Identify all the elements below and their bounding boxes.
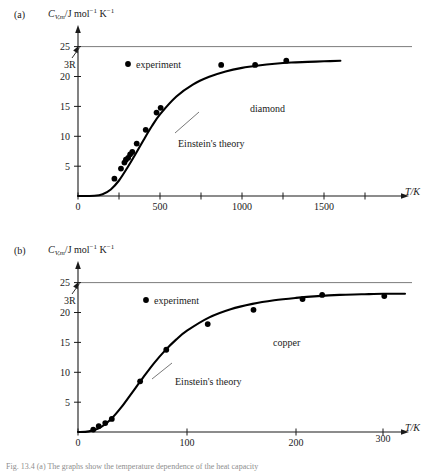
data-point <box>381 293 387 299</box>
panel-a-material-label: diamond <box>250 103 285 114</box>
data-point <box>143 127 149 133</box>
panel-a-ytick-15: 15 <box>60 101 70 112</box>
panel-a-xtick-1000: 1000 <box>232 201 252 212</box>
panel-b: (b) CV,m/J mol−1 K−1 3R 25 20 15 10 5 <box>0 236 428 468</box>
data-point <box>109 416 115 422</box>
panel-b-plot: 3R 25 20 15 10 5 0 100 200 300 <box>0 236 428 468</box>
panel-a: (a) CV,m/J mol−1 K−1 3R 25 <box>0 0 428 232</box>
data-point <box>218 62 224 68</box>
panel-a-3r-label: 3R <box>64 59 76 70</box>
panel-a-legend-marker <box>125 61 131 67</box>
panel-a-theory-leader <box>175 112 199 133</box>
panel-b-x-axis-label: T/K <box>405 422 420 433</box>
panel-b-theory-curve <box>78 294 405 432</box>
data-point <box>154 110 160 116</box>
panel-b-ytick-10: 10 <box>60 367 70 378</box>
panel-b-xtick-300: 300 <box>376 433 391 444</box>
data-point <box>102 420 108 426</box>
panel-b-ytick-15: 15 <box>60 337 70 348</box>
data-point <box>163 347 169 353</box>
panel-b-material-label: copper <box>273 337 301 348</box>
panel-a-ytick-20: 20 <box>60 71 70 82</box>
data-point <box>134 141 140 147</box>
panel-a-y-axis-arrow <box>75 25 81 33</box>
panel-a-xtick-500: 500 <box>153 201 168 212</box>
panel-a-ytick-25: 25 <box>60 41 70 52</box>
panel-b-legend-marker <box>143 297 149 303</box>
panel-a-legend-label: experiment <box>136 59 181 70</box>
panel-a-xtick-1500: 1500 <box>314 201 334 212</box>
data-point <box>319 292 325 298</box>
data-point <box>112 176 118 182</box>
data-point <box>96 423 102 429</box>
panel-a-x-axis-label-text: T/K <box>405 186 420 197</box>
panel-a-theory-curve <box>78 61 340 196</box>
panel-b-ytick-25: 25 <box>60 277 70 288</box>
panel-a-xtick-0: 0 <box>76 201 81 212</box>
data-point <box>118 166 124 172</box>
panel-a-experiment-points <box>112 58 290 182</box>
panel-b-xtick-200: 200 <box>289 437 304 448</box>
figure-caption: Fig. 13.4 (a) The graphs show the temper… <box>6 462 426 471</box>
data-point <box>251 307 257 313</box>
panel-a-ytick-10: 10 <box>60 131 70 142</box>
panel-a-ytick-5: 5 <box>65 161 70 172</box>
data-point <box>90 427 96 433</box>
data-point <box>283 58 289 64</box>
data-point <box>205 321 211 327</box>
panel-b-ytick-5: 5 <box>65 397 70 408</box>
panel-b-ytick-20: 20 <box>60 307 70 318</box>
panel-b-y-axis-arrow <box>75 261 81 269</box>
panel-b-theory-label: Einstein's theory <box>175 376 242 387</box>
panel-b-3r-label: 3R <box>64 295 76 306</box>
panel-b-theory-leader <box>152 363 172 379</box>
data-point <box>158 105 164 111</box>
panel-b-xtick-100: 100 <box>180 437 195 448</box>
panel-b-xtick-0: 0 <box>76 437 81 448</box>
panel-a-plot: 3R 25 20 15 10 5 <box>0 0 428 232</box>
data-point <box>252 62 258 68</box>
panel-b-legend-label: experiment <box>154 295 199 306</box>
data-point <box>129 149 135 155</box>
panel-a-x-axis-label: T/K <box>405 186 420 197</box>
panel-b-experiment-points <box>90 292 387 433</box>
data-point <box>137 378 143 384</box>
panel-b-x-axis-label-text: T/K <box>405 422 420 433</box>
data-point <box>300 296 306 302</box>
figure-container: (a) CV,m/J mol−1 K−1 3R 25 <box>0 0 428 472</box>
panel-a-theory-label: Einstein's theory <box>178 138 245 149</box>
